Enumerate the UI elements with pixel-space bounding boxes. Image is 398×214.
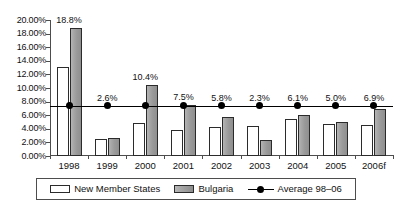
bar-new-member-states-1999[interactable] [95,139,107,156]
y-tick-label: 12.00% [17,70,46,79]
plot-area: 18.8%2.6%10.4%7.5%5.8%2.3%6.1%5.0%6.9% [50,20,393,156]
x-tick-label-2006f: 2006f [355,161,393,171]
x-tick-mark [317,155,318,159]
legend-item-new-member-states[interactable]: New Member States [50,184,160,194]
chart-legend: New Member States Bulgaria Average 98–06 [36,178,356,200]
x-tick-label-2001: 2001 [164,161,202,171]
y-tick-label: 4.00% [21,124,46,133]
bar-bulgaria-2005[interactable] [336,122,348,156]
x-tick-label-2002: 2002 [202,161,240,171]
x-tick-mark [164,155,165,159]
bar-group-1999 [88,20,126,156]
bar-bulgaria-2001[interactable] [184,105,196,156]
y-tick-mark [46,102,51,103]
y-tick-mark [46,47,51,48]
bar-bulgaria-2006f[interactable] [374,109,386,156]
y-tick-label: 6.00% [21,111,46,120]
legend-item-average[interactable]: Average 98–06 [248,184,342,194]
bar-group-2001 [164,20,202,156]
gray-square-swatch-icon [174,185,194,193]
bar-group-2005 [317,20,355,156]
x-tick-label-2003: 2003 [241,161,279,171]
bar-new-member-states-2005[interactable] [323,124,335,156]
bar-group-2003 [241,20,279,156]
y-tick-label: 18.00% [17,29,46,38]
y-tick-mark [46,20,51,21]
bar-group-2000 [126,20,164,156]
bar-new-member-states-2004[interactable] [285,119,297,156]
legend-item-bulgaria[interactable]: Bulgaria [174,184,233,194]
y-tick-mark [46,115,51,116]
data-label-2001: 7.5% [164,93,202,102]
y-tick-label: 2.00% [21,138,46,147]
y-tick-label: 8.00% [21,97,46,106]
bar-group-2002 [202,20,240,156]
white-square-swatch-icon [50,185,70,193]
bar-new-member-states-2003[interactable] [247,126,259,156]
average-point-2001[interactable] [180,102,187,109]
x-tick-mark [202,155,203,159]
x-tick-mark [126,155,127,159]
y-tick-label: 16.00% [17,43,46,52]
y-tick-mark [46,74,51,75]
bar-bulgaria-1998[interactable] [70,28,82,156]
y-tick-label: 20.00% [17,16,46,25]
x-tick-mark [279,155,280,159]
bar-new-member-states-2002[interactable] [209,127,221,156]
bar-bulgaria-1999[interactable] [108,138,120,156]
bar-bulgaria-2002[interactable] [222,117,234,156]
x-tick-mark [393,155,394,159]
bar-bulgaria-2004[interactable] [298,115,310,156]
legend-label-new-member-states: New Member States [74,184,160,194]
bar-new-member-states-2000[interactable] [133,123,145,156]
y-tick-mark [46,61,51,62]
y-tick-label: 0.00% [21,152,46,161]
x-tick-mark [355,155,356,159]
x-tick-mark [88,155,89,159]
average-point-2000[interactable] [142,102,149,109]
bar-new-member-states-1998[interactable] [57,67,69,156]
bar-new-member-states-2001[interactable] [171,130,183,156]
bar-bulgaria-2003[interactable] [260,140,272,156]
x-tick-mark [50,155,51,159]
line-with-dot-marker-icon [248,185,274,193]
y-tick-mark [46,142,51,143]
average-point-1999[interactable] [104,102,111,109]
y-tick-mark [46,34,51,35]
x-tick-label-1998: 1998 [50,161,88,171]
data-label-2000: 10.4% [126,73,164,82]
bar-chart: 0.00%2.00%4.00%6.00%8.00%10.00%12.00%14.… [0,0,398,214]
y-tick-label: 10.00% [17,84,46,93]
x-tick-label-2000: 2000 [126,161,164,171]
bar-new-member-states-2006f[interactable] [361,125,373,156]
legend-label-average: Average 98–06 [278,184,342,194]
bar-group-2004 [279,20,317,156]
x-tick-label-2004: 2004 [279,161,317,171]
x-tick-label-1999: 1999 [88,161,126,171]
y-tick-mark [46,88,51,89]
y-tick-label: 14.00% [17,56,46,65]
average-point-1998[interactable] [66,102,73,109]
bar-group-2006f [355,20,393,156]
x-tick-label-2005: 2005 [317,161,355,171]
legend-label-bulgaria: Bulgaria [198,184,233,194]
x-tick-mark [241,155,242,159]
y-tick-mark [46,129,51,130]
data-label-1998: 18.8% [50,16,88,25]
bar-group-1998 [50,20,88,156]
bar-bulgaria-2000[interactable] [146,85,158,156]
